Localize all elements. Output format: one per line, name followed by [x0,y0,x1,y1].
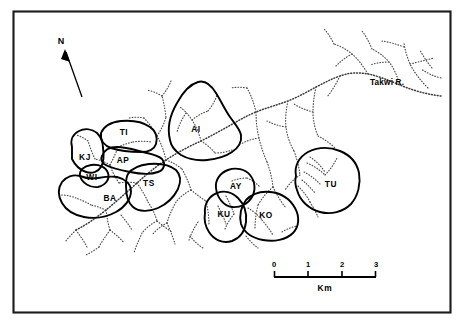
territory-label-tu: TU [325,179,337,189]
territory-label-ba: BA [103,193,116,203]
scale-tick-label-0: 0 [272,260,276,269]
scale-unit-label: Km [317,283,332,293]
north-arrow-label: N [58,36,65,46]
territory-label-ai: AI [191,124,201,134]
territory-label-ts: TS [143,178,155,188]
territory-label-ay: AY [230,181,242,191]
map-figure: KJ TI AP WI BA TS AI AY KU KO TU Takwi R… [0,0,464,325]
territory-label-kj: KJ [79,152,91,162]
territory-label-ti: TI [120,127,129,137]
territory-label-ko: KO [259,210,273,220]
river-label-takwi: Takwi R. [370,78,404,87]
territory-label-ku: KU [217,209,230,219]
map-canvas: KJ TI AP WI BA TS AI AY KU KO TU Takwi R… [0,0,464,325]
territory-label-wi: WI [86,172,97,182]
scale-tick-label-2: 2 [340,260,344,269]
territory-label-ap: AP [117,155,130,165]
scale-tick-label-3: 3 [374,260,378,269]
